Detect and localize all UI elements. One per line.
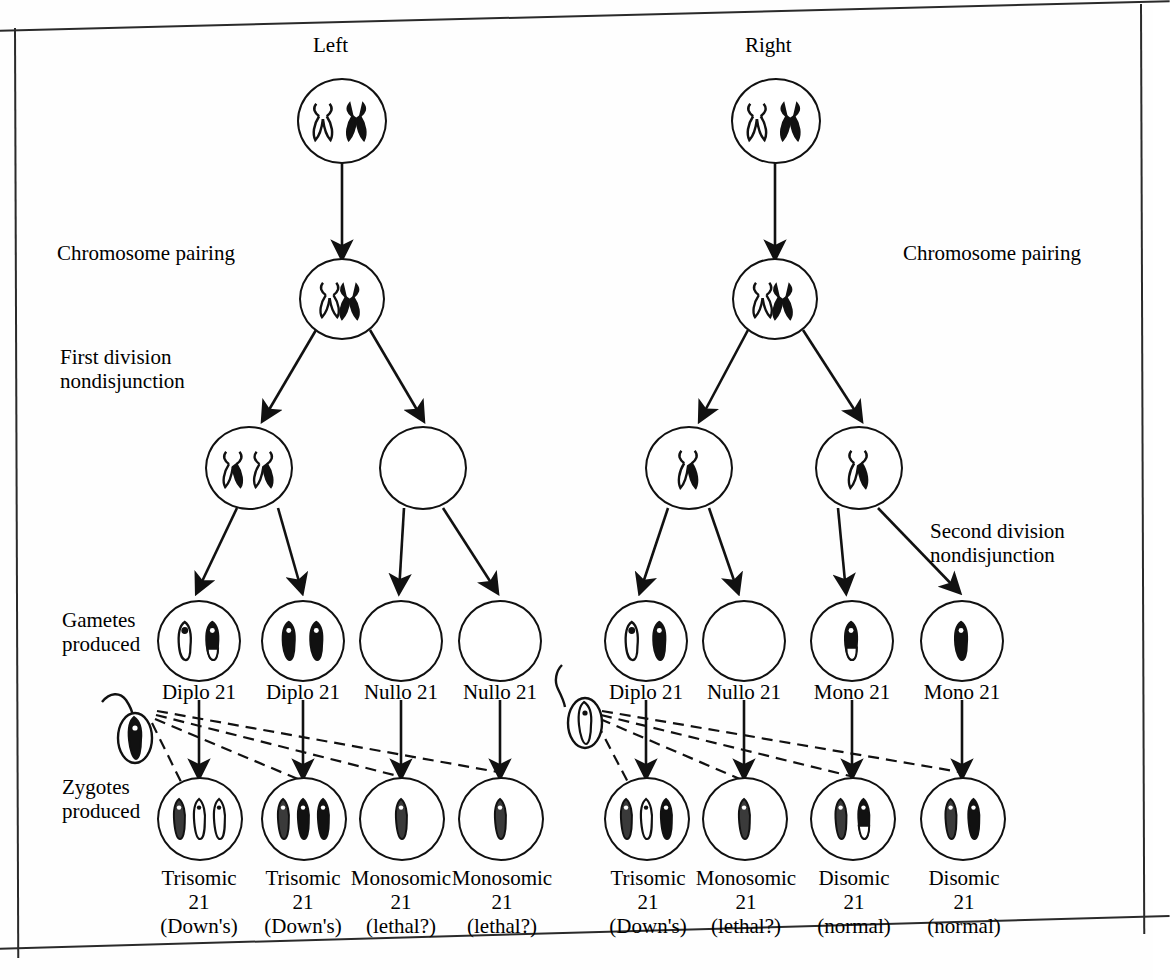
zygote-name-3: Monosomic (351, 866, 451, 890)
zygote-name-1: Trisomic (160, 866, 237, 890)
zygote-caption-4: Monosomic 21 (lethal?) (452, 866, 552, 938)
sperm-cell-right[interactable] (548, 663, 618, 753)
gamete-label-6: Nullo 21 (707, 680, 781, 705)
zygote-caption-5: Trisomic 21 (Down's) (609, 866, 686, 938)
zygote-name-7: Disomic (817, 866, 890, 890)
label-chromosome-pairing-left: Chromosome pairing (57, 241, 235, 266)
gamete-cell-8[interactable] (920, 600, 1004, 682)
header-left: Left (313, 33, 348, 58)
zygote-cell-6[interactable] (702, 777, 788, 861)
label-second-division-l2: nondisjunction (930, 543, 1055, 568)
label-gametes-l1: Gametes (62, 608, 135, 633)
gamete-label-8: Mono 21 (924, 680, 1000, 705)
gamete-cell-1[interactable] (157, 600, 241, 682)
zygote-note-1: (Down's) (160, 914, 237, 938)
zygote-caption-6: Monosomic 21 (lethal?) (696, 866, 796, 938)
zygote-cell-3[interactable] (359, 777, 445, 861)
zygote-note-8: (normal) (927, 914, 1000, 938)
zygote-number-4: 21 (452, 890, 552, 914)
header-right: Right (745, 33, 792, 58)
zygote-name-8: Disomic (927, 866, 1000, 890)
gamete-cell-2[interactable] (261, 600, 345, 682)
zygote-note-6: (lethal?) (696, 914, 796, 938)
zygote-name-4: Monosomic (452, 866, 552, 890)
germ-cell-right[interactable] (731, 78, 821, 164)
label-chromosome-pairing-right: Chromosome pairing (903, 241, 1081, 266)
label-second-division-l1: Second division (930, 519, 1065, 544)
page-border-right (1140, 4, 1145, 934)
zygote-cell-4[interactable] (458, 777, 544, 861)
zygote-caption-1: Trisomic 21 (Down's) (160, 866, 237, 938)
zygote-cell-7[interactable] (810, 777, 896, 861)
gamete-cell-6[interactable] (702, 600, 786, 682)
meiosis1-cell-right-a[interactable] (645, 426, 733, 510)
zygote-number-8: 21 (927, 890, 1000, 914)
paired-cell-right[interactable] (732, 258, 818, 340)
zygote-name-6: Monosomic (696, 866, 796, 890)
gamete-label-7: Mono 21 (814, 680, 890, 705)
zygote-note-7: (normal) (817, 914, 890, 938)
gamete-label-3: Nullo 21 (364, 680, 438, 705)
label-first-division-l2: nondisjunction (60, 369, 185, 394)
zygote-note-2: (Down's) (264, 914, 341, 938)
zygote-cell-1[interactable] (157, 777, 243, 861)
zygote-number-2: 21 (264, 890, 341, 914)
zygote-number-7: 21 (817, 890, 890, 914)
gamete-cell-7[interactable] (810, 600, 894, 682)
sperm-cell-left[interactable] (100, 690, 170, 770)
gamete-label-1: Diplo 21 (162, 680, 236, 705)
label-zygotes-l1: Zygotes (62, 775, 130, 800)
label-zygotes-l2: produced (62, 799, 140, 824)
zygote-number-5: 21 (609, 890, 686, 914)
gamete-cell-4[interactable] (458, 600, 542, 682)
zygote-cell-8[interactable] (920, 777, 1006, 861)
meiosis1-cell-left-b[interactable] (379, 426, 467, 510)
label-gametes-l2: produced (62, 632, 140, 657)
zygote-number-1: 21 (160, 890, 237, 914)
zygote-caption-2: Trisomic 21 (Down's) (264, 866, 341, 938)
page-border-left (14, 28, 19, 958)
meiosis1-cell-left-a[interactable] (205, 426, 293, 510)
zygote-cell-5[interactable] (604, 777, 690, 861)
gamete-label-2: Diplo 21 (266, 680, 340, 705)
zygote-note-5: (Down's) (609, 914, 686, 938)
zygote-caption-8: Disomic 21 (normal) (927, 866, 1000, 938)
gamete-label-4: Nullo 21 (463, 680, 537, 705)
zygote-number-3: 21 (351, 890, 451, 914)
page-border-top (0, 0, 1170, 32)
gamete-label-5: Diplo 21 (609, 680, 683, 705)
zygote-note-4: (lethal?) (452, 914, 552, 938)
paired-cell-left[interactable] (299, 258, 385, 340)
germ-cell-left[interactable] (297, 78, 387, 164)
label-first-division-l1: First division (60, 345, 171, 370)
zygote-cell-2[interactable] (261, 777, 347, 861)
zygote-note-3: (lethal?) (351, 914, 451, 938)
gamete-cell-3[interactable] (359, 600, 443, 682)
zygote-caption-3: Monosomic 21 (lethal?) (351, 866, 451, 938)
zygote-caption-7: Disomic 21 (normal) (817, 866, 890, 938)
zygote-name-2: Trisomic (264, 866, 341, 890)
zygote-number-6: 21 (696, 890, 796, 914)
zygote-name-5: Trisomic (609, 866, 686, 890)
meiosis1-cell-right-b[interactable] (815, 426, 903, 510)
